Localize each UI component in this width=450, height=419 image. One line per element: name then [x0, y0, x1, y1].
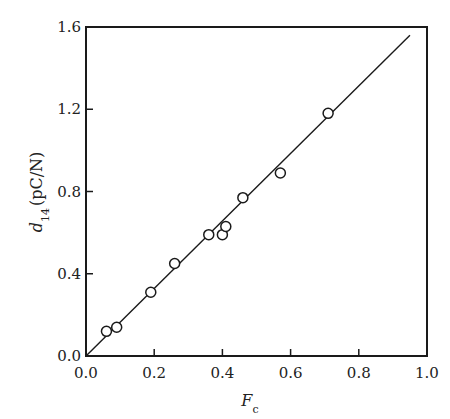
data-point — [204, 230, 214, 240]
x-tick-label: 0.0 — [74, 364, 98, 382]
x-tick-label: 1.0 — [415, 364, 439, 382]
plot-frame — [86, 27, 427, 356]
data-point — [323, 108, 333, 118]
data-point — [146, 287, 156, 297]
data-points — [101, 108, 333, 336]
data-point — [221, 221, 231, 231]
scatter-chart: 0.00.20.40.60.81.00.00.40.81.21.6 Fc d14… — [0, 0, 450, 419]
y-tick-label: 0.0 — [57, 347, 81, 365]
y-axis-label: d14(pC/N) — [27, 152, 52, 233]
x-axis-label: Fc — [240, 391, 258, 416]
data-point — [170, 258, 180, 268]
data-point — [101, 326, 111, 336]
data-point — [112, 322, 122, 332]
data-point — [238, 193, 248, 203]
x-tick-label: 0.6 — [279, 364, 303, 382]
x-tick-label: 0.8 — [347, 364, 371, 382]
data-point — [275, 168, 285, 178]
plot-border — [86, 27, 427, 356]
y-tick-label: 1.2 — [57, 100, 81, 118]
y-tick-label: 0.4 — [57, 265, 81, 283]
x-tick-label: 0.2 — [142, 364, 166, 382]
y-tick-label: 1.6 — [57, 18, 81, 36]
x-tick-label: 0.4 — [210, 364, 234, 382]
y-tick-label: 0.8 — [57, 183, 81, 201]
